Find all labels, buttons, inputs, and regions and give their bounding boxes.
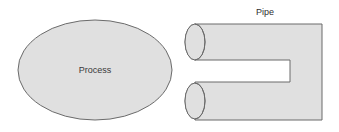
pipe-label: Pipe [256,7,274,17]
diagram-canvas: Process Pipe [0,0,339,132]
pipe-shape-group[interactable]: Pipe [185,7,322,120]
process-label: Process [79,65,112,75]
pipe-cap-bottom-fill [185,83,195,119]
process-shape-group[interactable]: Process [18,20,172,120]
pipe-cap-top-fill [185,24,195,60]
diagram-svg: Process Pipe [0,0,339,132]
pipe-body[interactable] [195,24,322,120]
